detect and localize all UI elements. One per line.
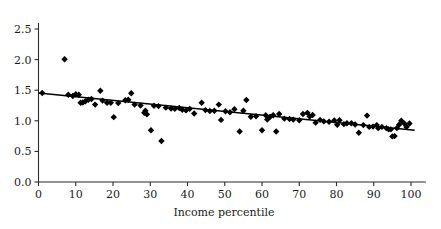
x-tick-label: 60 (255, 188, 269, 201)
plot-canvas: 0.00.51.01.52.02.5 010203040506070809010… (0, 0, 441, 229)
scatter-plot-figure: 0.00.51.01.52.02.5 010203040506070809010… (0, 0, 441, 229)
x-axis-title: Income percentile (173, 206, 274, 219)
y-tick-label: 0.5 (14, 145, 32, 158)
y-tick-label: 2.5 (14, 23, 32, 36)
x-tick-label: 30 (143, 188, 157, 201)
x-tick-label: 20 (106, 188, 120, 201)
x-tick-label: 10 (69, 188, 83, 201)
y-tick-label: 0.0 (14, 176, 32, 189)
y-tick-label: 1.5 (14, 84, 32, 97)
x-tick-label: 90 (367, 188, 381, 201)
x-tick-label: 100 (401, 188, 422, 201)
x-tick-label: 40 (181, 188, 195, 201)
x-tick-label: 50 (218, 188, 232, 201)
y-tick-label: 1.0 (14, 115, 32, 128)
x-tick-label: 0 (35, 188, 42, 201)
x-tick-label: 80 (330, 188, 344, 201)
x-tick-label: 70 (292, 188, 306, 201)
y-tick-label: 2.0 (14, 54, 32, 67)
